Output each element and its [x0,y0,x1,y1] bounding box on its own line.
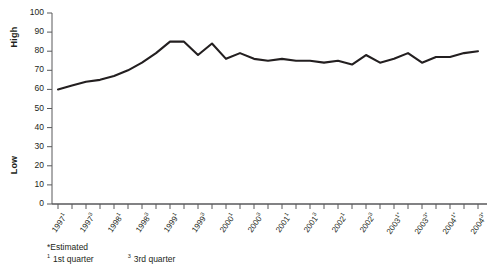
footnote-q1-text: 1st quarter [53,254,94,264]
footnote-q3-text: 3rd quarter [134,254,176,264]
axes [47,13,487,209]
line-chart: High Low 1009080706050403020100 19971199… [0,0,500,277]
plot-area [0,0,500,277]
footnote-q3-marker: 3 [128,253,131,259]
footnote-quarters: 11st quarter33rd quarter [47,253,175,265]
footnote-estimated: *Estimated [47,241,175,253]
footnote-q1-marker: 1 [47,253,50,259]
chart-footnotes: *Estimated 11st quarter33rd quarter [47,241,175,265]
data-series-line [58,42,478,90]
